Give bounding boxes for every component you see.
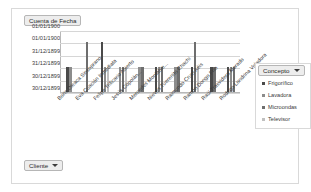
y-axis-tick-label: 30/12/1899: [32, 73, 60, 79]
y-axis-tick-label: 01/01/1900: [32, 23, 60, 29]
y-axis-tick-label: 31/12/1899: [32, 48, 60, 54]
x-axis-category-labels: Boris Oleaca SinsopranoEva Cuación Inmed…: [52, 95, 282, 155]
legend-item[interactable]: Frigorífico: [262, 80, 293, 86]
legend-item[interactable]: Microondas: [262, 104, 297, 110]
axis-field-button-cliente[interactable]: Cliente: [24, 160, 63, 171]
legend-item-label: Lavadora: [268, 92, 291, 98]
y-axis-tick-label: 31/12/1899: [32, 60, 60, 66]
y-axis-tick-label: 01/01/1900: [32, 35, 60, 41]
chevron-down-icon: [294, 69, 300, 72]
legend-item-label: Microondas: [268, 104, 297, 110]
pivot-chart-frame: Cuenta de Fecha 01/01/190001/01/190031/1…: [11, 8, 299, 184]
chevron-down-icon: [52, 164, 58, 167]
legend-color-swatch: [262, 118, 265, 121]
legend-color-swatch: [262, 106, 265, 109]
legend-item[interactable]: Televisor: [262, 116, 290, 122]
legend-field-button[interactable]: Concepto: [258, 65, 305, 76]
legend-item-label: Frigorífico: [268, 80, 293, 86]
legend-item[interactable]: Lavadora: [262, 92, 291, 98]
cliente-label: Cliente: [29, 161, 48, 170]
y-axis-tick-label: 30/12/1899: [32, 85, 60, 91]
legend-item-label: Televisor: [268, 116, 290, 122]
legend-color-swatch: [262, 94, 265, 97]
legend-color-swatch: [262, 82, 265, 85]
legend-title-label: Concepto: [263, 66, 290, 75]
